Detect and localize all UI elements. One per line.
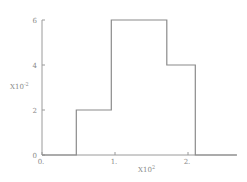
y-tick-label: 4 (33, 62, 38, 70)
x-tick-label: 1. (111, 158, 118, 166)
y-tick-label: 2 (33, 107, 37, 115)
x-tick-label: 0. (38, 158, 45, 166)
x-tick-label: 2. (184, 158, 191, 166)
axes (42, 20, 237, 155)
x-multiplier-label: X102 (138, 164, 155, 174)
step-series-line (42, 20, 237, 155)
y-tick-label: 6 (33, 17, 38, 25)
y-multiplier-label: X10-2 (10, 81, 29, 91)
y-tick-label: 0 (33, 152, 37, 160)
series-layer (42, 20, 237, 155)
step-chart: 02460.1.2. X10-2 X102 (0, 0, 247, 182)
